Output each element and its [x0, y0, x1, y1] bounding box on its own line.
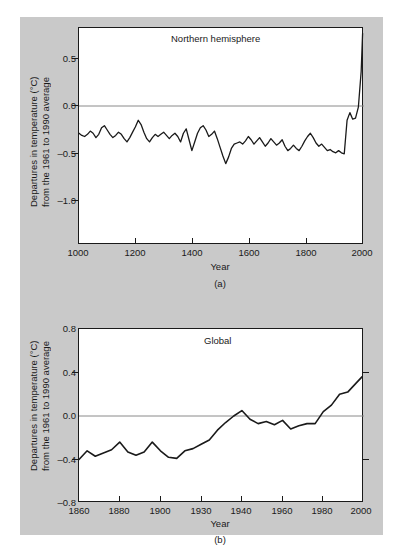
- panel-b-xtickmark-5: [282, 496, 283, 502]
- panel-b-ytickmark-3: [72, 459, 79, 460]
- panel-b-ytick-0: 0.8: [54, 323, 76, 334]
- panel-b-plot-svg: [79, 329, 364, 503]
- panel-a-xtickmark-5: [362, 238, 363, 244]
- panel-b-y-axis-title-line2: from the 1961 to 1990 average: [40, 341, 51, 471]
- panel-b-y-axis-title: Departures in temperature (°C) from the …: [28, 317, 52, 495]
- panel-b-xtickmark-7: [362, 496, 363, 502]
- panel-a-y-axis-title-line2: from the 1961 to 1990 average: [40, 77, 51, 207]
- panel-b-xtick-0: 1860: [68, 505, 89, 516]
- panel-b-caption: (b): [214, 534, 226, 545]
- panel-a-xtick-0: 1000: [67, 247, 88, 258]
- panel-a-xtick-3: 1600: [238, 247, 259, 258]
- panel-a-y-axis-title-line1: Departures in temperature (°C): [28, 77, 39, 208]
- panel-a-plot-svg: [79, 28, 364, 245]
- panel-b-xtick-3: 1930: [190, 505, 211, 516]
- panel-a-xtick-5: 2000: [351, 247, 372, 258]
- panel-b-y-axis-title-line1: Departures in temperature (°C): [28, 341, 39, 472]
- panel-b-ytickmark-right-1: [362, 372, 369, 373]
- figure-root: Departures in temperature (°C) from the …: [0, 0, 402, 549]
- panel-a-xtickmark-2: [192, 238, 193, 244]
- panel-a-xtickmark-3: [249, 238, 250, 244]
- panel-b-plot-area: Global: [78, 328, 363, 502]
- panel-a-xtick-2: 1400: [181, 247, 202, 258]
- panel-a-xtickmark-4: [306, 238, 307, 244]
- panel-b-xtick-1: 1880: [108, 505, 129, 516]
- panel-b-xtick-2: 1900: [149, 505, 170, 516]
- panel-b-xtick-5: 1960: [271, 505, 292, 516]
- chart-panel-b: Departures in temperature (°C) from the …: [20, 305, 383, 535]
- panel-a-xtick-4: 1800: [295, 247, 316, 258]
- figure-gray-panel: Departures in temperature (°C) from the …: [20, 17, 383, 535]
- panel-a-xtickmark-0: [78, 238, 79, 244]
- panel-b-xtickmark-6: [322, 496, 323, 502]
- panel-b-xtickmark-2: [160, 496, 161, 502]
- panel-b-x-axis-title: Year: [210, 518, 229, 529]
- panel-a-ytickmark-3: [72, 200, 79, 201]
- panel-b-ytickmark-1: [72, 372, 79, 373]
- panel-a-ytickmark-2: [72, 153, 79, 154]
- panel-a-ytickmark-0: [72, 58, 79, 59]
- panel-a-x-axis-title: Year: [210, 261, 229, 272]
- panel-a-ytickmark-1: [72, 105, 79, 106]
- panel-b-xtickmark-1: [119, 496, 120, 502]
- panel-b-xtick-7: 2000: [350, 505, 371, 516]
- panel-b-xtickmark-0: [78, 496, 79, 502]
- panel-b-xtickmark-3: [201, 496, 202, 502]
- panel-a-plot-area: Northern hemisphere: [78, 27, 363, 244]
- chart-panel-a: Departures in temperature (°C) from the …: [20, 17, 383, 302]
- panel-a-y-axis-title: Departures in temperature (°C) from the …: [28, 42, 52, 242]
- panel-a-caption: (a): [214, 278, 226, 289]
- panel-a-xtickmark-1: [135, 238, 136, 244]
- panel-b-xtick-6: 1980: [311, 505, 332, 516]
- panel-b-ytickmark-right-3: [362, 459, 369, 460]
- panel-a-xtick-1: 1200: [124, 247, 145, 258]
- panel-b-ytick-2: 0.0: [54, 410, 76, 421]
- panel-b-xtick-4: 1940: [230, 505, 251, 516]
- panel-a-data-line: [79, 33, 363, 163]
- panel-b-data-line: [79, 377, 362, 460]
- panel-b-xtickmark-4: [241, 496, 242, 502]
